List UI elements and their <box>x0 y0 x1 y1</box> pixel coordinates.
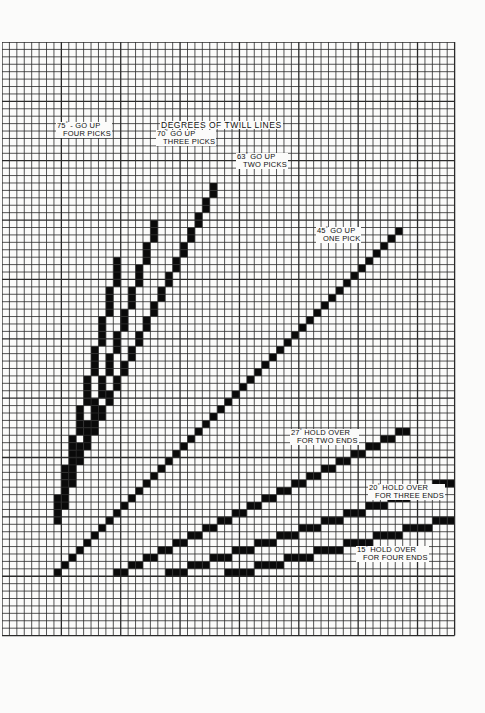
twill-70-cell <box>121 324 128 331</box>
label-line-2: THREE PICKS <box>157 138 215 146</box>
twill-45-cell <box>76 547 83 554</box>
twill-20-cell <box>284 532 291 539</box>
twill-63-cell <box>202 198 209 205</box>
twill-27-cell <box>299 480 306 487</box>
twill-15-cell <box>314 547 321 554</box>
twill-15-cell <box>447 517 454 524</box>
twill-63-cell <box>188 228 195 235</box>
twill-27-cell <box>284 487 291 494</box>
twill-27-cell <box>351 450 358 457</box>
twill-45-cell <box>128 495 135 502</box>
twill-70-cell <box>136 279 143 286</box>
degree-symbol-icon: ° <box>246 151 248 157</box>
label-line-2: TWO PICKS <box>237 161 287 169</box>
twill-75-cell <box>76 420 83 427</box>
twill-45-cell <box>366 257 373 264</box>
twill-63-cell <box>84 435 91 442</box>
twill-label-20: 20° HOLD OVERFOR THREE ENDS <box>368 484 445 500</box>
twill-45-cell <box>136 487 143 494</box>
twill-15-cell <box>403 524 410 531</box>
twill-75-cell <box>76 406 83 413</box>
twill-20-cell <box>202 561 209 568</box>
twill-63-cell <box>210 190 217 197</box>
twill-45-cell <box>84 539 91 546</box>
twill-45-cell <box>202 420 209 427</box>
twill-70-cell <box>150 228 157 235</box>
twill-63-cell <box>121 361 128 368</box>
twill-75-cell <box>113 272 120 279</box>
twill-15-cell <box>306 554 313 561</box>
twill-63-cell <box>143 324 150 331</box>
twill-27-cell <box>150 554 157 561</box>
twill-20-cell <box>217 554 224 561</box>
twill-70-cell <box>113 346 120 353</box>
twill-63-cell <box>113 383 120 390</box>
twill-45-cell <box>269 354 276 361</box>
twill-20-cell <box>210 554 217 561</box>
twill-75-cell <box>98 324 105 331</box>
twill-27-cell <box>165 547 172 554</box>
twill-45-cell <box>358 265 365 272</box>
twill-27-cell <box>143 554 150 561</box>
twill-63-cell <box>180 250 187 257</box>
twill-45-cell <box>54 569 61 576</box>
degree-symbol-icon: ° <box>378 482 380 488</box>
twill-15-cell <box>262 561 269 568</box>
twill-75-cell <box>61 465 68 472</box>
twill-27-cell <box>232 509 239 516</box>
twill-70-cell <box>136 272 143 279</box>
twill-15-cell <box>373 532 380 539</box>
twill-27-cell <box>291 480 298 487</box>
twill-63-cell <box>136 331 143 338</box>
twill-75-cell <box>106 287 113 294</box>
twill-20-cell <box>447 480 454 487</box>
twill-27-cell <box>403 428 410 435</box>
twill-45-cell <box>150 472 157 479</box>
twill-70-cell <box>150 235 157 242</box>
twill-20-cell <box>277 532 284 539</box>
twill-20-cell <box>254 539 261 546</box>
twill-27-cell <box>314 472 321 479</box>
twill-15-cell <box>336 547 343 554</box>
twill-15-cell <box>418 524 425 531</box>
twill-15-cell <box>254 561 261 568</box>
twill-45-cell <box>217 406 224 413</box>
twill-75-cell <box>69 458 76 465</box>
twill-27-cell <box>173 539 180 546</box>
twill-63-cell <box>143 317 150 324</box>
twill-20-cell <box>343 509 350 516</box>
twill-15-cell <box>277 561 284 568</box>
twill-27-cell <box>188 532 195 539</box>
twill-27-cell <box>328 465 335 472</box>
twill-63-cell <box>150 302 157 309</box>
twill-75-cell <box>61 472 68 479</box>
twill-27-cell <box>395 428 402 435</box>
twill-27-cell <box>277 487 284 494</box>
twill-45-cell <box>373 250 380 257</box>
twill-75-cell <box>91 354 98 361</box>
twill-45-cell <box>247 376 254 383</box>
twill-15-cell <box>284 554 291 561</box>
twill-75-cell <box>84 383 91 390</box>
twill-20-cell <box>173 569 180 576</box>
twill-63-cell <box>106 398 113 405</box>
twill-45-cell <box>284 339 291 346</box>
twill-75-cell <box>98 317 105 324</box>
degree-symbol-icon: ° <box>326 225 328 231</box>
twill-75-cell <box>106 309 113 316</box>
twill-63-cell <box>173 265 180 272</box>
twill-20-cell <box>299 524 306 531</box>
twill-27-cell <box>388 435 395 442</box>
twill-63-cell <box>76 458 83 465</box>
twill-15-cell <box>380 532 387 539</box>
twill-20-cell <box>225 554 232 561</box>
twill-70-cell <box>128 302 135 309</box>
twill-63-cell <box>121 368 128 375</box>
twill-63-cell <box>91 420 98 427</box>
twill-63-cell <box>165 279 172 286</box>
twill-15-cell <box>410 524 417 531</box>
twill-45-cell <box>343 279 350 286</box>
twill-20-cell <box>358 509 365 516</box>
label-line-2: ONE PICK <box>317 235 360 243</box>
twill-63-cell <box>195 213 202 220</box>
